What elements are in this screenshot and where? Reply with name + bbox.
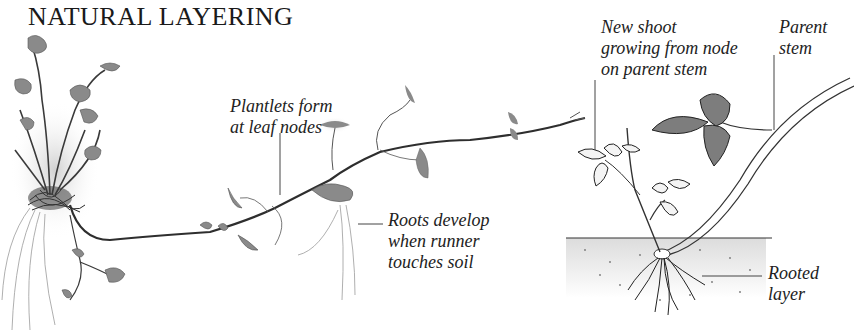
label-plantlets: Plantlets form at leaf nodes — [230, 96, 333, 138]
label-roots-develop: Roots develop when runner touches soil — [388, 210, 489, 273]
parent-plant-illustration — [2, 35, 125, 330]
label-new-shoot: New shoot growing from node on parent st… — [601, 17, 738, 80]
label-rooted-layer: Rooted layer — [768, 263, 819, 305]
label-parent-stem: Parent stem — [779, 17, 827, 59]
